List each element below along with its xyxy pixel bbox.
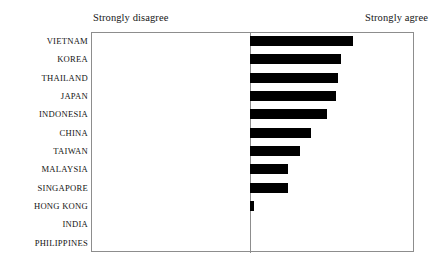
bar-row-label: SINGAPORE (0, 179, 88, 197)
bar-row: KOREA (0, 50, 438, 68)
bar (250, 128, 311, 138)
bar-row-label: INDONESIA (0, 105, 88, 123)
bar (250, 54, 341, 64)
bar-row: INDONESIA (0, 105, 438, 123)
bar-row-label: PHILIPPINES (0, 234, 88, 252)
bar-row: TAIWAN (0, 142, 438, 160)
bar-row: VIETNAM (0, 32, 438, 50)
bar-row: HONG KONG (0, 197, 438, 215)
bar-row-label: INDIA (0, 215, 88, 233)
bar (250, 91, 336, 101)
bar-row: JAPAN (0, 87, 438, 105)
horizontal-bar-chart: Strongly disagree Strongly agree VIETNAM… (0, 0, 438, 268)
bar (250, 201, 254, 211)
bar (250, 109, 327, 119)
bar-row: INDIA (0, 215, 438, 233)
bar (250, 146, 300, 156)
bar (250, 183, 288, 193)
bar (250, 73, 338, 83)
bar-row-label: HONG KONG (0, 197, 88, 215)
bar-row-label: TAIWAN (0, 142, 88, 160)
bar-row: PHILIPPINES (0, 234, 438, 252)
bar-rows: VIETNAMKOREATHAILANDJAPANINDONESIACHINAT… (0, 0, 438, 268)
bar-row-label: VIETNAM (0, 32, 88, 50)
bar (250, 36, 353, 46)
bar-row: SINGAPORE (0, 179, 438, 197)
bar-row-label: CHINA (0, 124, 88, 142)
bar-row-label: KOREA (0, 50, 88, 68)
bar-row-label: JAPAN (0, 87, 88, 105)
bar-row: CHINA (0, 124, 438, 142)
bar-row: MALAYSIA (0, 160, 438, 178)
bar-row: THAILAND (0, 69, 438, 87)
bar (250, 164, 288, 174)
bar-row-label: THAILAND (0, 69, 88, 87)
bar-row-label: MALAYSIA (0, 160, 88, 178)
